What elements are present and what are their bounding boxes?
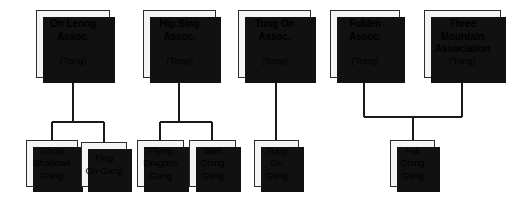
node-subtitle: (Tong) bbox=[425, 55, 500, 67]
node-subtitle: (Tong) bbox=[239, 55, 310, 67]
node-title: FlyingDragonsGang bbox=[143, 145, 178, 183]
node-title: On LeongAssoc. bbox=[50, 18, 96, 43]
tong-box-tung-on[interactable]: Tung OnAssoc.(Tong) bbox=[238, 10, 311, 78]
node-subtitle: (Tong) bbox=[37, 55, 109, 67]
node-title: Hip SingAssoc. bbox=[160, 18, 200, 43]
tong-box-fuklen[interactable]: FuklenAssoc.(Tong) bbox=[330, 10, 400, 78]
gang-box-ping-on[interactable]: PingOn Gang bbox=[81, 142, 127, 187]
node-subtitle: (Tong) bbox=[144, 55, 215, 67]
node-title: PingOn Gang bbox=[85, 152, 122, 177]
tong-box-on-leong[interactable]: On LeongAssoc.(Tong) bbox=[36, 10, 110, 78]
node-title: GhostShadowsGang bbox=[33, 145, 71, 183]
gang-box-tung-on-gang[interactable]: TungOnGang bbox=[254, 140, 299, 187]
node-title: FukChingGang bbox=[401, 145, 425, 183]
gang-box-ghost-shadows[interactable]: GhostShadowsGang bbox=[26, 140, 78, 187]
node-title: TungOnGang bbox=[265, 145, 287, 183]
node-title: ThreeMountainAssociation bbox=[435, 18, 491, 56]
org-chart-diagram: On LeongAssoc.(Tong)Hip SingAssoc.(Tong)… bbox=[0, 0, 523, 200]
node-title: FuklenAssoc. bbox=[349, 18, 381, 43]
node-title: Tung OnAssoc. bbox=[255, 18, 295, 43]
node-subtitle: (Tong) bbox=[331, 55, 399, 67]
node-title: WahChingGang bbox=[201, 145, 225, 183]
tong-box-hip-sing[interactable]: Hip SingAssoc.(Tong) bbox=[143, 10, 216, 78]
gang-box-flying-dragons[interactable]: FlyingDragonsGang bbox=[137, 140, 184, 187]
gang-box-wah-ching[interactable]: WahChingGang bbox=[189, 140, 236, 187]
tong-box-three-mountain[interactable]: ThreeMountainAssociation(Tong) bbox=[424, 10, 501, 78]
gang-box-fuk-ching[interactable]: FukChingGang bbox=[390, 140, 435, 187]
